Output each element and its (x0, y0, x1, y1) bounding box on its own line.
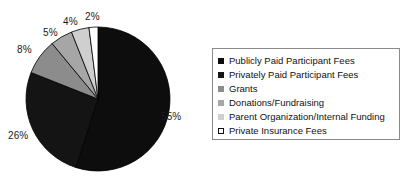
legend-swatch-grants (218, 86, 224, 92)
slice-label-donations-fundraising: 5% (43, 27, 58, 38)
legend-swatch-private-insurance-fees (218, 128, 224, 134)
slice-label-grants: 8% (17, 44, 32, 55)
slice-label-parent-organization-internal-funding: 4% (63, 16, 78, 27)
legend-swatch-publicly-paid-participant-fees (218, 58, 224, 64)
legend-label-parent-organization-internal-funding: Parent Organization/Internal Funding (229, 110, 385, 124)
legend-label-donations-fundraising: Donations/Fundraising (229, 96, 324, 110)
pie-plot-area: 55% 26% 8% 5% 4% 2% (0, 0, 205, 176)
chart-legend: Publicly Paid Participant Fees Privately… (212, 48, 400, 140)
legend-item[interactable]: Private Insurance Fees (218, 124, 395, 138)
slice-label-private-insurance-fees: 2% (85, 11, 100, 22)
legend-item[interactable]: Publicly Paid Participant Fees (218, 54, 395, 68)
pie-slice-group (26, 27, 170, 171)
legend-label-grants: Grants (229, 82, 258, 96)
legend-item[interactable]: Privately Paid Participant Fees (218, 68, 395, 82)
legend-swatch-parent-organization-internal-funding (218, 114, 224, 120)
slice-label-privately-paid-participant-fees: 26% (8, 130, 28, 141)
legend-swatch-privately-paid-participant-fees (218, 72, 224, 78)
legend-item[interactable]: Grants (218, 82, 395, 96)
legend-label-private-insurance-fees: Private Insurance Fees (229, 124, 327, 138)
pie-chart-figure: 55% 26% 8% 5% 4% 2% Publicly Paid Partic… (0, 0, 409, 176)
slice-label-publicly-paid-participant-fees: 55% (161, 111, 181, 122)
legend-label-privately-paid-participant-fees: Privately Paid Participant Fees (229, 68, 358, 82)
legend-swatch-donations-fundraising (218, 100, 224, 106)
legend-label-publicly-paid-participant-fees: Publicly Paid Participant Fees (229, 54, 355, 68)
pie-svg (0, 0, 205, 176)
legend-item[interactable]: Donations/Fundraising (218, 96, 395, 110)
legend-item[interactable]: Parent Organization/Internal Funding (218, 110, 395, 124)
